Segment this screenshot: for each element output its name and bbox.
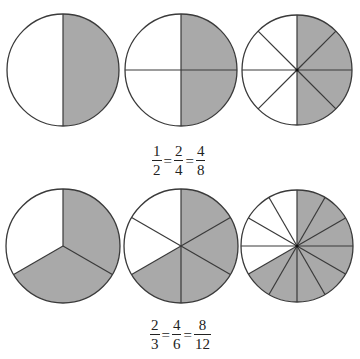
fraction: 812 bbox=[194, 318, 211, 352]
equals-sign: = bbox=[164, 153, 172, 170]
equals-sign: = bbox=[185, 153, 193, 170]
equivalent-fractions-halves: 12=24=48 bbox=[152, 144, 205, 178]
fraction-circle-1-of-2 bbox=[7, 14, 119, 126]
equals-sign: = bbox=[183, 327, 191, 344]
denominator: 12 bbox=[194, 335, 211, 352]
numerator: 8 bbox=[198, 318, 208, 334]
shaded-sector bbox=[63, 14, 119, 126]
denominator: 8 bbox=[196, 161, 206, 178]
equivalent-fractions-thirds: 23=46=812 bbox=[150, 318, 211, 352]
denominator: 6 bbox=[172, 335, 182, 352]
numerator: 4 bbox=[196, 144, 206, 160]
fraction-circle-4-of-6 bbox=[124, 189, 238, 303]
numerator: 2 bbox=[150, 318, 160, 334]
denominator: 2 bbox=[152, 161, 162, 178]
equals-sign: = bbox=[162, 327, 170, 344]
numerator: 4 bbox=[172, 318, 182, 334]
denominator: 3 bbox=[150, 335, 160, 352]
fraction: 46 bbox=[172, 318, 182, 352]
fraction-circle-4-of-8 bbox=[242, 15, 352, 125]
fraction: 24 bbox=[174, 144, 184, 178]
fraction-circles-diagram bbox=[0, 0, 360, 359]
center-point bbox=[295, 244, 298, 247]
fraction-circle-2-of-3 bbox=[6, 189, 120, 303]
fraction-circle-2-of-4 bbox=[125, 14, 237, 126]
fraction-circle-8-of-12 bbox=[241, 190, 353, 302]
fraction: 48 bbox=[196, 144, 206, 178]
numerator: 1 bbox=[152, 144, 162, 160]
fraction: 12 bbox=[152, 144, 162, 178]
numerator: 2 bbox=[174, 144, 184, 160]
denominator: 4 bbox=[174, 161, 184, 178]
fraction: 23 bbox=[150, 318, 160, 352]
center-point bbox=[295, 68, 298, 71]
